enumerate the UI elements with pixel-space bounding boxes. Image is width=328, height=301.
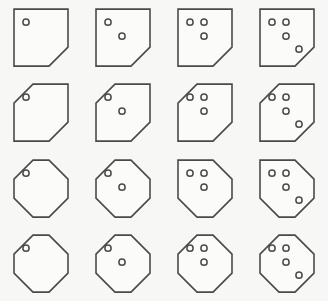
- polygon-shape: [14, 160, 68, 217]
- cell-canvas: [246, 75, 328, 150]
- matrix-cell-r1-c2: [164, 75, 246, 150]
- matrix-cell-r2-c2: [164, 151, 246, 226]
- cell-canvas: [164, 75, 246, 150]
- matrix-cell-r3-c2: [164, 226, 246, 301]
- cell-canvas: [164, 226, 246, 301]
- matrix-cell-r0-c1: [82, 0, 164, 75]
- matrix-cell-r0-c0: [0, 0, 82, 75]
- cell-canvas: [164, 151, 246, 226]
- matrix-grid: [0, 0, 328, 301]
- cell-canvas: [0, 0, 82, 75]
- polygon-shape: [260, 160, 314, 217]
- polygon-shape: [260, 235, 314, 292]
- matrix-cell-r1-c1: [82, 75, 164, 150]
- polygon-shape: [260, 9, 314, 66]
- polygon-shape: [178, 235, 232, 292]
- polygon-shape: [178, 160, 232, 217]
- cell-canvas: [164, 0, 246, 75]
- polygon-shape: [178, 84, 232, 141]
- polygon-shape: [260, 84, 314, 141]
- cell-canvas: [246, 0, 328, 75]
- cell-canvas: [0, 75, 82, 150]
- matrix-cell-r2-c1: [82, 151, 164, 226]
- matrix-cell-r1-c0: [0, 75, 82, 150]
- cell-canvas: [82, 151, 164, 226]
- matrix-cell-r2-c0: [0, 151, 82, 226]
- polygon-shape: [178, 9, 232, 66]
- matrix-cell-r2-c3: [246, 151, 328, 226]
- matrix-cell-r3-c3: [246, 226, 328, 301]
- cell-canvas: [82, 75, 164, 150]
- polygon-shape: [96, 160, 150, 217]
- cell-canvas: [246, 151, 328, 226]
- matrix-cell-r3-c0: [0, 226, 82, 301]
- polygon-shape: [14, 9, 68, 66]
- cell-canvas: [82, 226, 164, 301]
- polygon-shape: [96, 9, 150, 66]
- matrix-cell-r3-c1: [82, 226, 164, 301]
- matrix-cell-r0-c2: [164, 0, 246, 75]
- polygon-shape: [96, 84, 150, 141]
- polygon-dot-matrix-figure: [0, 0, 328, 301]
- polygon-shape: [96, 235, 150, 292]
- polygon-shape: [14, 84, 68, 141]
- cell-canvas: [246, 226, 328, 301]
- matrix-cell-r1-c3: [246, 75, 328, 150]
- cell-canvas: [82, 0, 164, 75]
- cell-canvas: [0, 226, 82, 301]
- matrix-cell-r0-c3: [246, 0, 328, 75]
- polygon-shape: [14, 235, 68, 292]
- cell-canvas: [0, 151, 82, 226]
